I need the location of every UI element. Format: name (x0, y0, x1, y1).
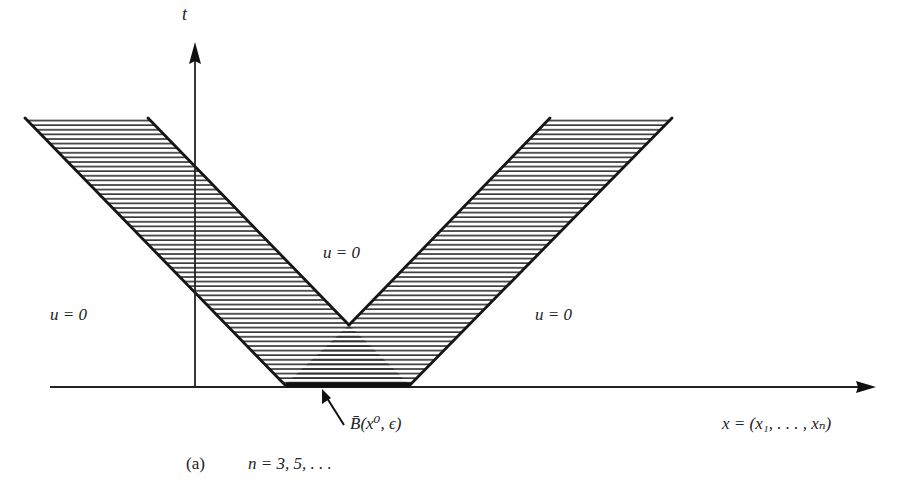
caption-tag: (a) (186, 454, 205, 474)
region-label-center: u = 0 (323, 243, 360, 263)
ball-pointer-line (327, 398, 344, 425)
ball-label: B̄(x⁰, ϵ) (350, 413, 401, 434)
t-axis-label: t (182, 4, 187, 25)
t-axis-arrowhead-icon (189, 42, 201, 64)
region-label-right: u = 0 (535, 305, 572, 325)
region-label-left: u = 0 (50, 305, 87, 325)
caption-text: n = 3, 5, . . . (248, 454, 332, 474)
x-axis-arrowhead-icon (856, 381, 876, 393)
x-axis-label: x = (x₁, . . . , xₙ) (722, 413, 831, 434)
wave-support-diagram: t x = (x₁, . . . , xₙ) u = 0 u = 0 u = 0… (0, 0, 903, 499)
